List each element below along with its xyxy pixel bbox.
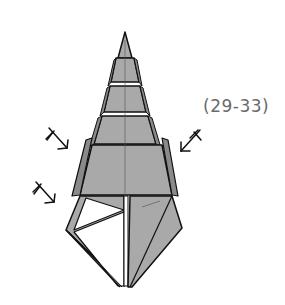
origami-diagram (0, 0, 285, 305)
tiered-cone-model (66, 32, 182, 287)
center-slit (124, 196, 128, 286)
inside-reverse-fold-arrow-icon (33, 182, 55, 203)
inside-reverse-fold-arrow-icon (46, 128, 68, 149)
tier-4 (80, 145, 172, 195)
inside-reverse-fold-arrow-icon (181, 130, 201, 151)
